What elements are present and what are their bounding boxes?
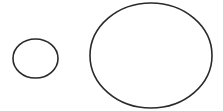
background (0, 0, 223, 111)
diagram-canvas (0, 0, 223, 111)
